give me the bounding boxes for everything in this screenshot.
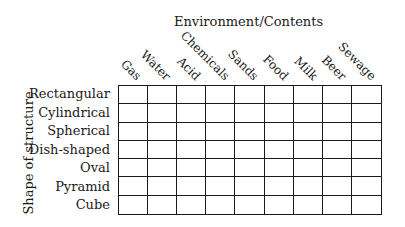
grid-cell [119,159,148,177]
grid-cell [265,104,294,122]
grid-cell [148,86,177,104]
grid-cell [294,177,323,195]
grid-cell [265,159,294,177]
grid-cell [206,196,235,214]
grid-cell [119,104,148,122]
grid-cell [235,159,264,177]
grid-cell [235,141,264,159]
grid-cell [148,159,177,177]
grid-cell [323,104,352,122]
grid-cell [206,86,235,104]
row-label-rectangular: Rectangular [29,85,110,103]
grid-cell [265,196,294,214]
column-label-water: Water [138,48,173,83]
grid-cell [294,159,323,177]
grid-cell [352,196,381,214]
shape-environment-grid [118,85,382,215]
grid-cell [119,123,148,141]
grid-cell [119,196,148,214]
grid-cell [177,196,206,214]
grid-cell [119,86,148,104]
row-label-dish-shaped: Dish-shaped [29,141,110,159]
grid-cell [235,177,264,195]
grid-cell [206,159,235,177]
grid-cell [148,196,177,214]
grid-cell [119,141,148,159]
grid-cell [235,196,264,214]
grid-cell [323,177,352,195]
grid-cell [323,159,352,177]
grid-cell [148,141,177,159]
grid-cell [265,123,294,141]
grid-cell [265,177,294,195]
grid-cell [352,104,381,122]
row-label-cylindrical: Cylindrical [38,104,110,122]
column-label-milk: Milk [291,54,319,82]
row-label-cube: Cube [76,196,110,214]
grid-cell [323,86,352,104]
grid-cell [206,141,235,159]
grid-cell [206,104,235,122]
grid-cell [352,141,381,159]
grid-cell [352,86,381,104]
grid-cell [352,159,381,177]
grid-cell [323,141,352,159]
grid-cell [119,177,148,195]
grid-cell [235,123,264,141]
column-label-sands: Sands [226,47,261,82]
column-label-gas: Gas [118,57,143,82]
column-axis-title: Environment/Contents [174,14,323,29]
grid-cell [177,104,206,122]
row-label-pyramid: Pyramid [55,178,110,196]
grid-cell [177,86,206,104]
grid-cell [148,104,177,122]
grid-cell [294,86,323,104]
grid-cell [294,196,323,214]
grid-cell [177,123,206,141]
grid-cell [323,123,352,141]
grid-cell [235,86,264,104]
grid-cell [148,177,177,195]
grid-cell [294,104,323,122]
row-label-oval: Oval [80,159,110,177]
grid-cell [265,141,294,159]
grid-cell [294,141,323,159]
grid-cell [352,177,381,195]
grid-cell [265,86,294,104]
column-label-food: Food [260,52,290,82]
grid-cell [177,159,206,177]
grid-cell [294,123,323,141]
grid-cell [323,196,352,214]
grid-cell [352,123,381,141]
grid-cell [235,104,264,122]
grid-cell [148,123,177,141]
grid-cell [206,123,235,141]
grid-cell [206,177,235,195]
grid-cell [177,177,206,195]
row-label-spherical: Spherical [47,122,110,140]
grid-cell [177,141,206,159]
